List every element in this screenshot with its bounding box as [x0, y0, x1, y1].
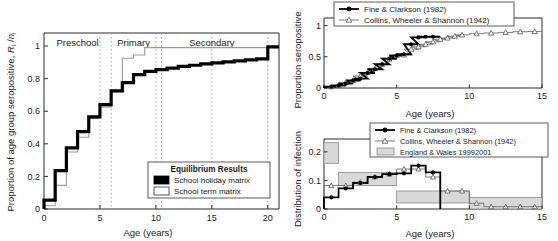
tr-marker-fine: [344, 82, 348, 86]
tr-xtick-label: 15: [537, 91, 547, 101]
tr-xaxis-label: Age (years): [405, 108, 454, 119]
main-region-label-2: Secondary: [189, 37, 235, 48]
tr-marker-fine: [416, 35, 420, 39]
equilibrium-seroprofile-svg: 0510152000.20.40.60.81PreschoolPrimarySe…: [0, 0, 290, 241]
infection-distribution-svg: 05101500.10.2Fine & Clarkson (1982)Colli…: [290, 121, 558, 241]
br-marker-fine: [387, 172, 391, 176]
main-ytick-label: 0.8: [27, 74, 40, 84]
br-marker-fine: [416, 163, 420, 167]
main-ytick-label: 1: [35, 41, 40, 51]
tr-xtick-label: 5: [394, 91, 399, 101]
br-yaxis-label: Distribution of infection: [292, 131, 303, 227]
tr-xtick-label: 0: [321, 91, 326, 101]
figure-root: 0510152000.20.40.60.81PreschoolPrimarySe…: [0, 0, 558, 241]
br-marker-fine: [402, 171, 406, 175]
main-ytick-label: 0.4: [27, 139, 40, 149]
br-marker-fine: [344, 186, 348, 190]
main-legend-label-term: School term matrix: [174, 187, 241, 196]
tr-marker-fine: [409, 42, 413, 46]
tr-axis-frame: [324, 18, 542, 88]
tr-xtick-label: 10: [464, 91, 474, 101]
tr-marker-fine: [402, 52, 406, 56]
main-xtick-label: 0: [41, 213, 46, 223]
tr-marker-fine: [387, 57, 391, 61]
br-xtick-label: 0: [321, 212, 326, 222]
tr-marker-fine: [358, 77, 362, 81]
main-region-label-0: Preschool: [56, 37, 98, 48]
br-xtick-label: 10: [464, 212, 474, 222]
br-legend-label-fine: Fine & Clarkson (1982): [400, 126, 476, 135]
main-xtick-label: 20: [263, 213, 273, 223]
tr-marker-fine: [431, 35, 435, 39]
tr-legend-label-collins: Collins, Wheeler & Shannon (1942): [364, 16, 490, 25]
main-region-label-1: Primary: [117, 37, 150, 48]
main-ytick-label: 0.2: [27, 172, 40, 182]
br-ytick-label: 0.1: [308, 176, 321, 186]
br-ytick-label: 0.2: [308, 147, 321, 157]
main-xaxis-label: Age (years): [123, 227, 172, 238]
seroprevalence-svg: 05101500.51Fine & Clarkson (1982)Collins…: [290, 0, 558, 121]
tr-ytick-label: 1: [316, 21, 321, 31]
tr-marker-fine: [424, 35, 428, 39]
tr-legend-marker-fine: [347, 7, 352, 12]
tr-marker-fine: [395, 53, 399, 57]
br-legend-label-collins: Collins, Wheeler & Shannon (1942): [400, 137, 516, 146]
tr-marker-fine: [336, 83, 340, 87]
tr-ytick-label: 0: [316, 83, 321, 93]
tr-marker-fine: [373, 67, 377, 71]
br-marker-fine: [358, 181, 362, 185]
tr-marker-fine: [366, 71, 370, 75]
svg-text:Proportion of age group seropo: Proportion of age group seropositive, Ri…: [5, 32, 17, 211]
br-legend-label-ew: England & Wales 19992001: [400, 148, 491, 157]
panel-equilibrium-seroprofile: 0510152000.20.40.60.81PreschoolPrimarySe…: [0, 0, 290, 241]
br-marker-fine: [431, 170, 435, 174]
tr-marker-fine: [329, 85, 333, 89]
br-ew-band-0: [324, 143, 339, 164]
main-legend-label-holiday: School holiday matrix: [174, 176, 250, 185]
tr-legend-label-fine: Fine & Clarkson (1982): [364, 5, 447, 14]
tr-legend: Fine & Clarkson (1982)Collins, Wheeler &…: [334, 2, 514, 26]
br-xaxis-label: Age (years): [405, 228, 454, 239]
br-legend-marker-fine: [383, 128, 388, 133]
tr-ytick-label: 0.5: [308, 52, 321, 62]
br-xtick-label: 5: [394, 212, 399, 222]
main-legend-swatch-term: [154, 187, 169, 195]
br-ew-band-2: [397, 191, 470, 203]
main-xtick-label: 15: [207, 213, 217, 223]
main-xtick-label: 5: [97, 213, 102, 223]
main-xtick-label: 10: [151, 213, 161, 223]
main-ytick-label: 0.6: [27, 106, 40, 116]
main-ytick-label: 0: [35, 204, 40, 214]
br-marker-fine: [373, 175, 377, 179]
main-yaxis-label: Proportion of age group seropositive, Ri…: [5, 32, 17, 211]
panel-seroprevalence-comparison: 05101500.51Fine & Clarkson (1982)Collins…: [290, 0, 558, 121]
br-legend-swatch-ew: [377, 148, 394, 155]
br-legend: Fine & Clarkson (1982)Collins, Wheeler &…: [370, 123, 548, 157]
main-legend-title: Equilibrium Results: [171, 165, 248, 174]
br-ytick-label: 0: [316, 204, 321, 214]
br-xtick-label: 15: [537, 212, 547, 222]
tr-marker-fine: [351, 78, 355, 82]
tr-marker-fine: [380, 62, 384, 66]
tr-yaxis-label: Proportion seropositive: [292, 11, 303, 108]
br-marker-fine: [329, 195, 333, 199]
panel-infection-distribution: 05101500.10.2Fine & Clarkson (1982)Colli…: [290, 121, 558, 241]
main-legend-swatch-holiday: [154, 176, 169, 184]
main-legend: Equilibrium ResultsSchool holiday matrix…: [148, 162, 270, 198]
